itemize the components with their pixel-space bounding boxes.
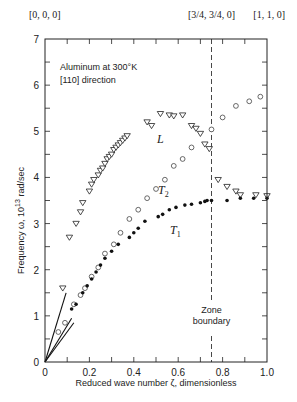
- data-point-T1: [156, 215, 160, 219]
- series-T2-markers: [56, 94, 263, 334]
- x-tick-label: 0.6: [171, 367, 185, 378]
- x-axis-title: Reduced wave number ζ, dimensionless: [75, 378, 237, 388]
- y-tick-label: 4: [33, 172, 39, 183]
- top-label: [0, 0, 0]: [29, 9, 61, 20]
- data-point-T2: [258, 94, 263, 99]
- x-tick-label: 0.2: [82, 367, 96, 378]
- phonon-dispersion-chart: 00.20.40.60.81.0 01234567 [0, 0, 0][3/4,…: [0, 0, 297, 402]
- zone-boundary-label-line1: Zone: [201, 305, 222, 315]
- data-point-T2: [103, 251, 108, 256]
- y-tick-label: 3: [33, 219, 39, 230]
- data-point-L: [86, 189, 92, 194]
- data-point-L: [148, 124, 154, 129]
- data-point-T2: [234, 104, 239, 109]
- data-point-T2: [136, 207, 141, 212]
- data-point-T2: [111, 242, 116, 247]
- data-point-L: [77, 210, 83, 215]
- series-label-T1: T1: [170, 223, 181, 239]
- data-point-L: [73, 221, 79, 226]
- data-point-L: [206, 147, 212, 152]
- data-point-T1: [143, 219, 147, 223]
- y-axis-title: Frequency ω, 1013 rad/sec: [14, 167, 26, 274]
- top-label: [1, 1, 0]: [253, 9, 285, 20]
- data-point-T1: [128, 236, 132, 240]
- data-point-T2: [145, 196, 150, 201]
- data-point-L: [224, 184, 230, 189]
- data-point-T1: [132, 231, 136, 235]
- data-point-T2: [162, 177, 167, 182]
- plot-frame: [45, 39, 267, 362]
- data-point-T1: [168, 208, 172, 212]
- annotation-material: Aluminum at 300°K: [60, 62, 137, 72]
- data-point-L: [80, 201, 86, 206]
- y-tick-labels: 01234567: [33, 34, 39, 368]
- initial-slope-lines: [45, 293, 74, 362]
- data-point-T1: [136, 226, 140, 230]
- data-point-T2: [56, 330, 61, 335]
- data-point-T1: [183, 203, 187, 207]
- L-slope-line: [45, 293, 66, 362]
- axis-ticks: [45, 39, 267, 362]
- series-label-L: L: [156, 132, 164, 146]
- data-point-L: [66, 235, 72, 240]
- y-tick-label: 0: [33, 357, 39, 368]
- data-point-T2: [209, 127, 214, 132]
- data-point-T2: [118, 230, 123, 235]
- x-tick-label: 1.0: [260, 367, 274, 378]
- annotation-direction: [110] direction: [60, 75, 116, 85]
- data-point-T1: [94, 270, 98, 274]
- data-point-T1: [103, 256, 107, 260]
- data-point-L: [171, 114, 177, 119]
- x-tick-label: 0.8: [216, 367, 230, 378]
- zone-boundary-label-line2: boundary: [193, 316, 231, 326]
- data-point-T1: [190, 202, 194, 206]
- y-tick-label: 5: [33, 126, 39, 137]
- y-tick-label: 6: [33, 80, 39, 91]
- data-point-T2: [189, 145, 194, 150]
- data-point-T2: [247, 99, 252, 104]
- data-point-L: [193, 126, 199, 131]
- data-point-T1: [161, 213, 165, 217]
- data-point-L: [179, 113, 185, 118]
- T1-slope-line: [45, 323, 74, 362]
- top-label: [3/4, 3/4, 0]: [188, 9, 235, 20]
- series-T1-markers: [70, 196, 269, 310]
- data-point-L: [215, 177, 221, 182]
- data-point-T1: [174, 206, 178, 210]
- data-point-T1: [252, 196, 256, 200]
- x-tick-label: 0: [42, 367, 48, 378]
- data-point-T1: [110, 249, 114, 253]
- data-point-T1: [225, 199, 229, 203]
- data-point-T2: [63, 320, 68, 325]
- data-point-T1: [99, 263, 103, 267]
- data-point-T1: [90, 277, 94, 281]
- data-point-T2: [220, 115, 225, 120]
- data-point-L: [197, 131, 203, 136]
- data-point-T1: [239, 196, 243, 200]
- data-point-T2: [180, 157, 185, 162]
- y-tick-label: 7: [33, 34, 39, 45]
- T2-slope-line: [45, 318, 72, 362]
- data-point-T1: [81, 291, 85, 295]
- y-tick-label: 1: [33, 311, 39, 322]
- data-point-T2: [171, 163, 176, 168]
- series-label-T2: T2: [158, 183, 169, 199]
- series-L-markers: [60, 112, 271, 292]
- data-point-T1: [210, 199, 214, 203]
- data-point-T1: [74, 303, 78, 307]
- data-point-T1: [85, 284, 89, 288]
- data-point-T1: [70, 307, 74, 311]
- x-tick-labels: 00.20.40.60.81.0: [42, 367, 274, 378]
- x-tick-label: 0.4: [127, 367, 141, 378]
- y-tick-label: 2: [33, 265, 39, 276]
- data-point-L: [60, 286, 66, 291]
- data-point-L: [157, 112, 163, 117]
- data-point-T2: [127, 217, 132, 222]
- data-point-T1: [199, 201, 203, 205]
- data-point-T1: [205, 199, 209, 203]
- data-point-T1: [116, 243, 120, 247]
- top-direction-labels: [0, 0, 0][3/4, 3/4, 0][1, 1, 0]: [29, 9, 285, 20]
